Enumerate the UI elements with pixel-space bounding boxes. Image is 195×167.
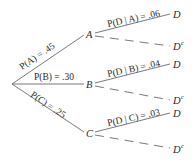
node-b-d: D: [172, 59, 181, 70]
edge-label-d-given-a: P(D | A) = .06: [106, 8, 161, 30]
complement-superscript: c: [181, 142, 184, 149]
edge-label-b: P(B) = .30: [34, 72, 74, 83]
branch-c-dc: [95, 135, 170, 148]
node-a: A: [85, 29, 93, 40]
node-c: C: [86, 128, 94, 139]
branch-a-dc: [95, 36, 170, 46]
node-c-d: D: [172, 108, 181, 119]
node-a-dc: D: [172, 41, 181, 52]
node-b: B: [86, 79, 93, 90]
probability-tree-diagram: P(A) = .45 P(B) = .30 P(C) = .25 A B C P…: [0, 0, 195, 167]
edge-label-d-given-c: P(D | C) = .03: [106, 107, 161, 129]
edge-label-d-given-b: P(D | B) = .04: [106, 58, 161, 80]
complement-superscript: c: [181, 39, 184, 46]
node-b-dc: D: [172, 95, 181, 106]
node-c-dc: D: [172, 144, 181, 155]
node-a-d: D: [172, 9, 181, 20]
edge-label-c: P(C) = .25: [28, 89, 67, 121]
complement-superscript: c: [181, 93, 184, 100]
edge-label-a: P(A) = .45: [18, 41, 58, 73]
branch-b-dc: [95, 86, 170, 100]
